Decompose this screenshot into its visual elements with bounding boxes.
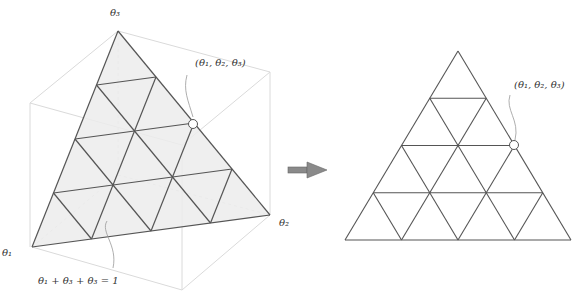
point-label-right: (θ₁, θ₂, θ₃): [514, 79, 565, 90]
axis-label-theta3: θ₃: [110, 7, 120, 18]
point-callout-line-left: [186, 75, 193, 117]
point-marker-left: [189, 120, 198, 129]
constraint-label: θ₁ + θ₃ + θ₃ = 1: [38, 275, 119, 286]
arrow-right-icon: [288, 162, 327, 178]
point-label-left: (θ₁, θ₂, θ₃): [195, 57, 246, 68]
simplex-diagram: (θ₁, θ₂, θ₃) θ₁ + θ₃ + θ₃ = 1 θ₃ θ₁ θ₂ (…: [0, 0, 577, 300]
axis-label-theta2: θ₂: [279, 217, 289, 228]
point-marker-right: [510, 141, 519, 150]
axis-label-theta1: θ₁: [2, 247, 12, 258]
point-callout-line-right: [509, 95, 516, 140]
